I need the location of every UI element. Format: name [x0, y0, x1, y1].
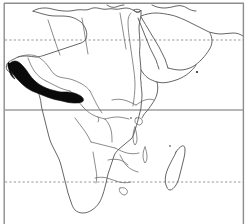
comoros-islet-dot: [169, 145, 171, 147]
nile-river: [128, 13, 135, 106]
anatolia-coastline: [152, 5, 196, 11]
gulf-islet-dot: [130, 117, 132, 119]
latitude-line-group: [5, 40, 243, 182]
sahara-border-a: [48, 20, 60, 55]
africa-distribution-map: [0, 0, 248, 224]
gulf-of-guinea-islet-tick: [98, 117, 99, 122]
horn-of-africa-coastline: [141, 65, 196, 83]
zimbabwe-border: [120, 155, 138, 172]
madagascar-coastline: [165, 146, 185, 190]
cyprus-outline: [134, 9, 140, 12]
west-african-coastal-range: [8, 61, 84, 103]
arabian-south-coastline: [168, 33, 212, 70]
congo-west-border: [75, 118, 91, 142]
socotra-island-dot: [196, 71, 198, 73]
namibia-border: [93, 152, 97, 183]
egypt-nile-border: [120, 13, 126, 49]
congo-basin-border-b: [105, 119, 112, 142]
ethiopia-border: [136, 99, 154, 105]
sahara-border-b: [82, 18, 88, 54]
central-africa-border: [105, 117, 129, 119]
lesotho-border: [119, 188, 127, 195]
lake-malawi: [143, 147, 147, 163]
red-sea-west-shore: [138, 18, 159, 69]
map-canvas: [0, 0, 248, 224]
southern-europe-coastline: [107, 5, 124, 7]
arabian-peninsula-coastline: [141, 13, 243, 36]
red-sea-east-shore: [141, 17, 168, 68]
angola-zambia-border: [91, 142, 115, 148]
sudan-border: [112, 99, 136, 105]
shaded-range-group: [8, 61, 84, 103]
